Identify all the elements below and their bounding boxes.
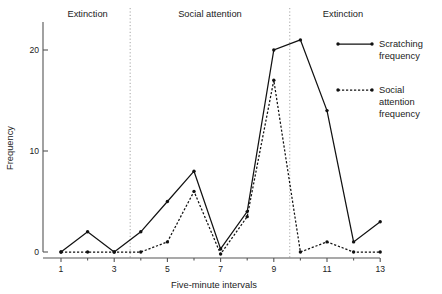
data-point [246, 215, 249, 218]
x-tick-label: 5 [165, 264, 170, 274]
x-tick-label: 11 [323, 264, 332, 274]
legend-entry-1: Scratchingfrequency [336, 39, 423, 61]
data-point [139, 250, 142, 253]
data-point [299, 38, 302, 41]
chart-container: ExtinctionSocial attentionExtinction 135… [0, 0, 442, 294]
phase-label: Extinction [67, 9, 107, 19]
data-point [352, 250, 355, 253]
data-point [325, 109, 328, 112]
data-point [379, 250, 382, 253]
data-point [192, 170, 195, 173]
legend-swatch-marker [370, 88, 373, 91]
y-tick-group: 01020 [29, 45, 48, 257]
legend-label: Scratching [379, 39, 423, 49]
data-point [166, 200, 169, 203]
phase-label: Extinction [323, 9, 363, 19]
data-point [272, 48, 275, 51]
legend-label: Social [379, 85, 404, 95]
legend-label: frequency [379, 109, 420, 119]
phase-divider-group [130, 8, 290, 258]
data-point [86, 250, 89, 253]
legend-entry-2: Socialattentionfrequency [336, 85, 420, 119]
x-tick-label: 13 [375, 264, 385, 274]
series-line [61, 40, 380, 252]
data-point [379, 220, 382, 223]
x-tick-label: 9 [271, 264, 276, 274]
series-1 [59, 38, 382, 254]
data-point [113, 250, 116, 253]
chart-legend: ScratchingfrequencySocialattentionfreque… [336, 39, 423, 119]
data-point [219, 252, 222, 255]
line-chart: ExtinctionSocial attentionExtinction 135… [0, 0, 442, 294]
phase-label: Social attention [178, 9, 242, 19]
data-point [166, 240, 169, 243]
data-point [352, 240, 355, 243]
x-tick-group: 135791113 [59, 258, 386, 274]
y-tick-label: 0 [34, 247, 39, 257]
data-point [59, 250, 62, 253]
y-axis-title: Frequency [5, 126, 15, 170]
data-point [192, 190, 195, 193]
data-series-group [59, 38, 382, 256]
legend-label: attention [379, 97, 415, 107]
x-axis-title: Five-minute intervals [171, 280, 257, 290]
data-point [139, 230, 142, 233]
x-tick-label: 1 [59, 264, 64, 274]
legend-label: frequency [379, 51, 420, 61]
data-point [325, 240, 328, 243]
series-2 [59, 79, 382, 256]
data-point [299, 250, 302, 253]
y-tick-label: 10 [29, 146, 39, 156]
legend-swatch-marker [336, 88, 339, 91]
legend-swatch-marker [336, 42, 339, 45]
data-point [86, 230, 89, 233]
series-line [61, 80, 380, 254]
phase-label-group: ExtinctionSocial attentionExtinction [67, 9, 363, 19]
x-tick-label: 7 [218, 264, 223, 274]
data-point [272, 79, 275, 82]
x-tick-label: 3 [112, 264, 117, 274]
y-tick-label: 20 [29, 45, 39, 55]
legend-swatch-marker [370, 42, 373, 45]
